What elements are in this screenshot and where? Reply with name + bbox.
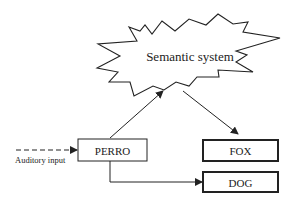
dog-node: DOG	[203, 172, 278, 192]
perro-label: PERRO	[95, 145, 131, 157]
diagram-canvas: Semantic system Auditory input PERRO FOX…	[0, 0, 294, 203]
dog-label: DOG	[229, 177, 253, 189]
semantic-system-node: Semantic system	[97, 14, 280, 96]
perro-node: PERRO	[78, 139, 147, 161]
semantic-system-label: Semantic system	[146, 49, 234, 64]
auditory-input-label: Auditory input	[15, 155, 66, 165]
arrow-perro-to-semantic	[110, 91, 163, 138]
arrow-semantic-to-fox	[183, 91, 238, 134]
fox-label: FOX	[229, 145, 251, 157]
arrow-perro-to-dog	[110, 161, 202, 182]
fox-node: FOX	[203, 140, 278, 161]
